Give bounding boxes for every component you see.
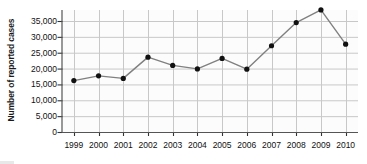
x-tick-label: 2000 [89,140,108,150]
x-tick-label: 2009 [311,140,330,150]
x-tick-label: 2007 [262,140,281,150]
x-tick-label: 2003 [163,140,182,150]
x-tick-label: 2001 [114,140,133,150]
x-tick-label: 1999 [64,140,83,150]
x-tick-label: 2010 [336,140,355,150]
x-tick-label: 2002 [139,140,158,150]
x-tick-label: 2006 [237,140,256,150]
x-tick-label: 2005 [213,140,232,150]
x-axis-tick-labels: 1999200020012002200320042005200620072008… [0,0,367,164]
line-chart: Number of reported cases 05,00010,00015,… [0,0,367,164]
bottom-left-artifact [0,161,14,164]
x-tick-label: 2008 [287,140,306,150]
x-tick-label: 2004 [188,140,207,150]
